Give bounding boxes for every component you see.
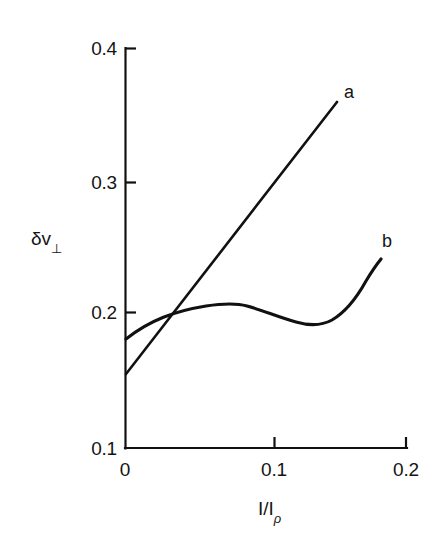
x-tick-label-0: 0 <box>105 459 145 481</box>
y-tick-label-1: 0.3 <box>55 172 117 194</box>
y-tick-label-2: 0.2 <box>55 302 117 324</box>
y-axis-title: δv⊥ <box>31 228 62 253</box>
plot-svg <box>0 0 434 546</box>
x-tick-label-2: 0.2 <box>376 459 434 481</box>
x-axis-title: I/Iρ <box>258 498 281 523</box>
y-axis-ticks <box>125 49 136 313</box>
series-a-line <box>126 102 337 374</box>
y-axis-title-text: δv <box>31 228 51 249</box>
curve-a-label: a <box>344 82 354 103</box>
x-axis-title-subscript: ρ <box>274 511 281 526</box>
y-tick-label-3: 0.1 <box>55 438 117 460</box>
x-tick-label-1: 0.1 <box>244 459 304 481</box>
x-axis-title-text: I/I <box>258 498 274 519</box>
axis-lines <box>125 48 407 449</box>
y-axis-title-subscript: ⊥ <box>51 241 62 256</box>
series-b-curve <box>126 259 381 339</box>
curve-b-label: b <box>382 231 392 252</box>
figure-container: 0.4 0.3 0.2 0.1 0 0.1 0.2 δv⊥ I/Iρ a b <box>0 0 434 546</box>
y-tick-label-0: 0.4 <box>55 38 117 60</box>
x-axis-ticks <box>275 437 407 448</box>
